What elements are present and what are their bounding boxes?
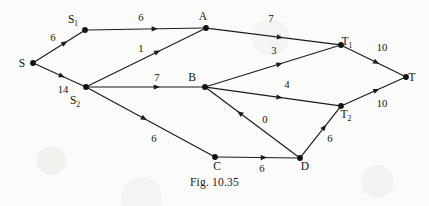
edge-weight-T1-T: 10 (377, 41, 388, 53)
edge-S2-to-C (88, 88, 212, 156)
node-subscript-S2: 2 (76, 100, 80, 109)
node-dot-S1 (82, 27, 88, 33)
arrowhead (154, 84, 160, 89)
node-label-S: S (19, 57, 25, 69)
node-dot-B (202, 84, 208, 90)
edge-S2-to-B (89, 84, 203, 89)
edge-weight-D-B: 0 (262, 113, 267, 125)
edge-S-to-S1 (35, 31, 83, 61)
edge-C-to-D (218, 155, 298, 160)
node-label-D: D (301, 160, 309, 172)
edge-T2-to-T (343, 78, 403, 105)
edge-weight-B-T2: 4 (284, 78, 290, 90)
arrowhead (152, 26, 158, 31)
arrowhead (237, 111, 244, 117)
edge-weight-S1-A: 6 (138, 11, 144, 23)
edge-D-to-B (207, 89, 298, 157)
arrowhead (276, 62, 283, 67)
edge-weight-T2-T: 10 (377, 97, 388, 109)
node-subscript-T2: 2 (348, 114, 352, 123)
node-label-T2: T2 (341, 108, 352, 123)
edge-D-to-T2 (302, 108, 340, 156)
arrowhead (261, 155, 267, 160)
edge-weight-S-S2: 14 (58, 83, 69, 95)
edge-T1-to-T (343, 46, 403, 76)
edge-weight-D-T2: 6 (327, 132, 333, 144)
arrowhead (277, 34, 283, 39)
edge-A-to-T1 (209, 28, 339, 44)
edge-weight-S-S1: 6 (50, 31, 56, 43)
node-label-S1: S1 (68, 13, 78, 28)
edge-S2-to-A (88, 29, 203, 86)
node-label-T: T (408, 71, 415, 83)
node-label-S2: S2 (70, 94, 80, 109)
figure-caption: Fig. 10.35 (0, 176, 429, 188)
edge-weight-S2-C: 6 (151, 132, 157, 144)
arrowhead (276, 94, 283, 99)
node-subscript-S1: 1 (74, 19, 78, 28)
node-dot-A (203, 25, 209, 31)
edge-weight-S2-B: 7 (154, 71, 160, 83)
node-label-A: A (199, 10, 208, 22)
node-label-C: C (213, 160, 221, 172)
node-dot-S2 (83, 84, 89, 90)
node-label-B: B (188, 71, 196, 83)
edge-weight-C-D: 6 (259, 162, 265, 174)
node-dot-S (30, 60, 36, 66)
edge-weight-B-T1: 3 (271, 44, 276, 56)
edge-S1-to-A (88, 26, 204, 31)
edge-label-layer: 61461767340661010 (50, 11, 387, 174)
edge-weight-A-T1: 7 (268, 12, 274, 24)
edge-weight-S2-A: 1 (138, 42, 143, 54)
node-subscript-T1: 1 (349, 41, 353, 50)
arrowhead (61, 41, 68, 47)
